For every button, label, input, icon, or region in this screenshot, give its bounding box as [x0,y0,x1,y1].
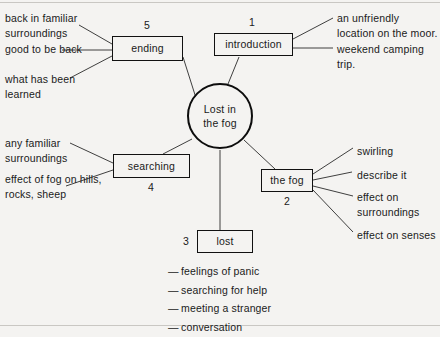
node-label-ending: ending [131,43,164,54]
list-item: — feelings of panic [168,266,271,277]
diagram-canvas: Lost in the fog introduction 1 the fog 2… [0,0,440,337]
node-box-lost[interactable]: lost [197,230,253,253]
list-item: — searching for help [168,285,271,296]
leaf-ending-good-to-be-back: good to be back [5,42,109,57]
node-box-ending[interactable]: ending [112,36,183,61]
dash-bullet-icon: — [168,266,181,277]
lost-bullet-list: — feelings of panic — searching for help… [168,266,271,337]
leaf-the-fog-swirling: swirling [357,144,439,159]
leaf-searching-any-familiar-surroundings: any familiar surroundings [5,136,109,166]
node-number-searching: 4 [148,182,154,193]
node-box-searching[interactable]: searching [113,154,190,178]
center-circle-label: Lost in the fog [203,102,237,130]
lost-bullet-meeting-a-stranger: meeting a stranger [181,303,271,314]
center-label-line2: the fog [203,117,237,129]
list-item: — conversation [168,322,271,333]
link-thefog-leaf4 [313,190,353,232]
link-center-thefog [244,140,275,169]
node-label-the-fog: the fog [270,175,304,186]
dash-bullet-icon: — [168,322,181,333]
leaf-introduction-unfriendly-location: an unfriendly location on the moor. [337,11,439,41]
node-number-lost: 3 [183,236,189,247]
link-thefog-leaf2 [313,172,352,180]
link-center-ending [183,57,196,98]
lost-bullet-searching-for-help: searching for help [181,285,267,296]
leaf-the-fog-describe-it: describe it [357,168,439,183]
node-label-searching: searching [128,161,175,172]
link-center-introduction [228,57,239,84]
dash-bullet-icon: — [168,285,181,296]
leaf-ending-back-in-familiar-surroundings: back in familiar surroundings [5,11,109,41]
node-number-introduction: 1 [249,17,255,28]
list-item: — meeting a stranger [168,303,271,314]
leaf-the-fog-effect-on-senses: effect on senses [357,228,440,243]
link-thefog-leaf3 [313,186,353,196]
node-box-the-fog[interactable]: the fog [261,169,313,192]
lost-bullet-conversation: conversation [181,322,242,333]
node-label-lost: lost [216,236,233,247]
center-label-line1: Lost in [204,103,236,115]
link-introduction-leaf1 [293,18,333,39]
link-center-searching [163,139,192,154]
node-box-introduction[interactable]: introduction [214,33,293,56]
node-number-ending: 5 [144,20,150,31]
dash-bullet-icon: — [168,303,181,314]
center-circle: Lost in the fog [187,83,253,149]
leaf-ending-what-has-been-learned: what has been learned [5,72,109,102]
link-thefog-leaf1 [313,148,353,174]
node-number-the-fog: 2 [284,196,290,207]
lost-bullet-feelings-of-panic: feelings of panic [181,266,259,277]
node-label-introduction: introduction [225,39,282,50]
leaf-searching-effect-of-fog: effect of fog on hills, rocks, sheep [5,172,109,202]
leaf-introduction-weekend-camping-trip: weekend camping trip. [337,42,437,72]
leaf-the-fog-effect-on-surroundings: effect on surroundings [357,190,439,220]
